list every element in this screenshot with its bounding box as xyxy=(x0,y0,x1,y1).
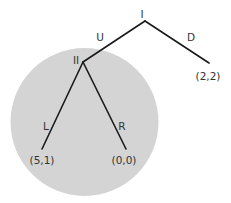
edge-d xyxy=(145,21,209,63)
node-label-i: I xyxy=(140,8,143,20)
payoff-ul: (5,1) xyxy=(30,154,55,166)
payoff-ur: (0,0) xyxy=(112,154,137,166)
edge-label-r: R xyxy=(118,120,125,132)
node-label-ii: II xyxy=(73,54,79,66)
edge-label-l: L xyxy=(43,120,49,132)
payoff-d: (2,2) xyxy=(196,70,221,82)
game-tree-diagram: III UDLR (5,1)(0,0)(2,2) xyxy=(0,0,231,203)
edge-label-u: U xyxy=(96,31,104,43)
information-set-circle xyxy=(11,48,159,196)
edge-label-d: D xyxy=(187,31,195,43)
